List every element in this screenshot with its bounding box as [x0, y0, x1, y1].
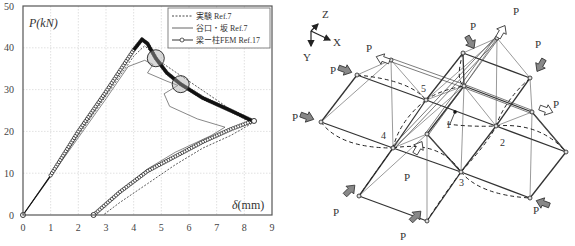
- node-label-4: 4: [381, 130, 386, 141]
- highlight-circle: [172, 76, 189, 93]
- x-tick-label: 8: [242, 222, 247, 233]
- frame-members: [319, 36, 568, 223]
- node-label-2: 2: [500, 137, 505, 148]
- compression-load-arrow: [462, 34, 479, 52]
- coordinate-axes: Z X Y: [303, 8, 341, 63]
- x-tick-label: 3: [104, 222, 109, 233]
- y-tick-label: 0: [9, 210, 14, 221]
- compression-load-arrow: [407, 207, 425, 225]
- compression-load-arrow: [337, 62, 354, 77]
- load-label-p: P: [533, 204, 539, 216]
- load-label-p: P: [535, 38, 541, 50]
- node-label-1: 1: [446, 119, 451, 130]
- tension-load-arrow: [374, 51, 391, 66]
- load-label-p: P: [404, 171, 410, 183]
- compression-load-arrow: [299, 109, 316, 124]
- load-label-p: P: [470, 20, 476, 32]
- x-tick-label: 2: [76, 222, 81, 233]
- legend-item-taniguchi: 谷口・坂 Ref.7: [196, 23, 248, 33]
- load-label-p: P: [513, 5, 519, 17]
- load-label-p: P: [400, 230, 406, 242]
- y-tick-label: 50: [4, 1, 14, 12]
- node-labels: 1 2 3 4 5: [381, 83, 505, 188]
- node-label-3: 3: [459, 177, 464, 188]
- legend: 実験 Ref.7 谷口・坂 Ref.7 梁ー柱FEM Ref.17: [168, 8, 270, 48]
- load-displacement-chart: 012345678901020304050 P(kN) δ(mm) 実験 Ref…: [0, 0, 290, 246]
- y-tick-label: 20: [4, 126, 14, 137]
- axis-y-label: Y: [303, 51, 311, 63]
- legend-item-fem: 梁ー柱FEM Ref.17: [196, 35, 260, 45]
- y-tick-label: 30: [4, 84, 14, 95]
- load-label-p: P: [333, 206, 339, 218]
- axis-z-label: Z: [322, 8, 329, 20]
- x-axis-label: δ(mm): [232, 198, 264, 212]
- chart-series: [21, 38, 257, 218]
- load-label-p: P: [553, 98, 559, 110]
- highlight-circle: [147, 50, 164, 67]
- x-tick-label: 7: [214, 222, 219, 233]
- y-tick-label: 40: [4, 42, 14, 53]
- y-axis-label: P(kN): [28, 16, 58, 30]
- compression-load-arrow: [532, 57, 549, 75]
- space-frame-diagram: Z X Y PPPPPPPPPPP 1 2 3 4 5: [290, 0, 575, 246]
- axis-x-label: X: [333, 36, 341, 48]
- load-label-p: P: [330, 64, 336, 76]
- x-tick-label: 6: [187, 222, 192, 233]
- x-tick-label: 9: [270, 222, 275, 233]
- node-label-5: 5: [421, 83, 426, 94]
- x-tick-label: 4: [131, 222, 136, 233]
- x-tick-label: 0: [21, 222, 26, 233]
- x-tick-label: 5: [159, 222, 164, 233]
- load-label-p: P: [292, 111, 298, 123]
- y-tick-label: 10: [4, 168, 14, 179]
- compression-load-arrow: [341, 181, 359, 199]
- legend-item-experiment: 実験 Ref.7: [196, 11, 232, 21]
- load-label-p: P: [366, 42, 372, 54]
- x-tick-label: 1: [48, 222, 53, 233]
